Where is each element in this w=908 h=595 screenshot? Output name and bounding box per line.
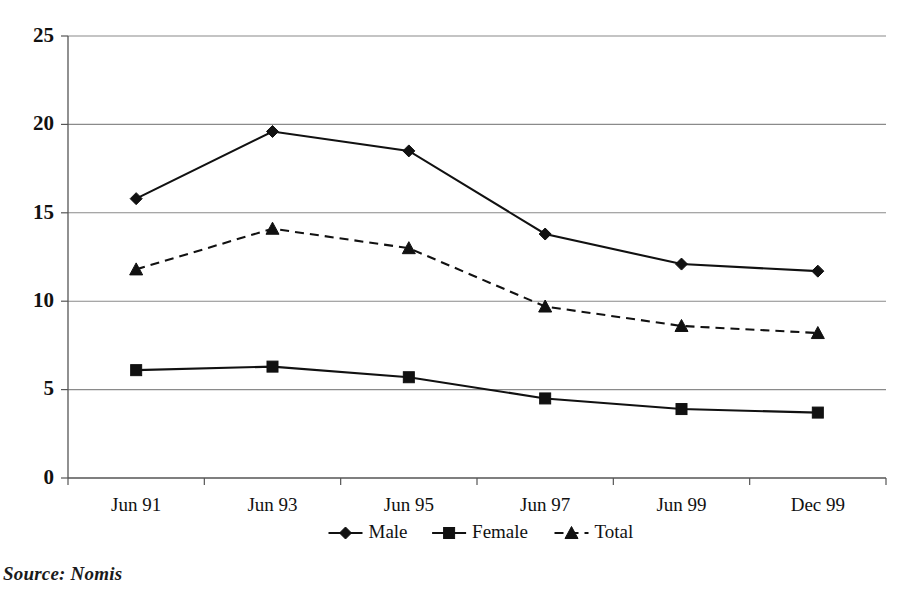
marker-diamond-male-2 (403, 145, 415, 157)
marker-diamond-male-3 (539, 228, 551, 240)
x-tick-label: Jun 99 (656, 494, 706, 515)
x-tick-label: Dec 99 (791, 494, 845, 515)
source-note: Source: Nomis (3, 563, 122, 585)
marker-diamond-male-1 (267, 125, 279, 137)
y-axis-tick-labels: 0510152025 (33, 23, 54, 489)
y-tick-label: 10 (33, 288, 54, 312)
marker-diamond-male-5 (812, 265, 824, 277)
chart-legend: MaleFemaleTotal (329, 521, 634, 542)
figure-container: 0510152025 Jun 91Jun 93Jun 95Jun 97Jun 9… (0, 0, 908, 595)
series-line-total (136, 229, 818, 333)
x-tick-label: Jun 93 (247, 494, 297, 515)
series-line-male (136, 131, 818, 271)
y-tick-label: 0 (44, 465, 55, 489)
marker-square-female-4 (676, 404, 687, 415)
y-tick-label: 20 (33, 111, 54, 135)
x-tick-label: Jun 95 (384, 494, 434, 515)
marker-diamond-legend-male (340, 527, 352, 539)
y-tick-label: 25 (33, 23, 54, 47)
x-axis-tick-labels: Jun 91Jun 93Jun 95Jun 97Jun 99Dec 99 (111, 494, 845, 515)
y-tick-label: 5 (44, 376, 55, 400)
x-tick-label: Jun 91 (111, 494, 161, 515)
legend-label-total: Total (595, 521, 634, 542)
gridlines (68, 36, 886, 390)
marker-diamond-male-0 (130, 193, 142, 205)
marker-square-legend-female (444, 528, 455, 539)
x-tick-label: Jun 97 (520, 494, 570, 515)
marker-triangle-total-3 (539, 300, 552, 312)
marker-square-female-0 (131, 365, 142, 376)
marker-diamond-male-4 (676, 258, 688, 270)
legend-label-male: Male (369, 521, 408, 542)
marker-triangle-total-1 (266, 222, 279, 234)
marker-square-female-2 (403, 372, 414, 383)
marker-square-female-3 (540, 393, 551, 404)
marker-square-female-1 (267, 361, 278, 372)
marker-square-female-5 (812, 407, 823, 418)
axes (61, 36, 886, 485)
line-chart: 0510152025 Jun 91Jun 93Jun 95Jun 97Jun 9… (0, 0, 908, 560)
y-tick-label: 15 (33, 200, 54, 224)
legend-label-female: Female (472, 521, 528, 542)
data-series (130, 125, 825, 418)
